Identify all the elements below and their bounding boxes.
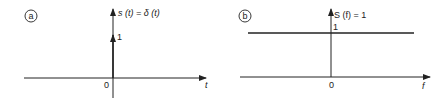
level-label: 1 xyxy=(333,22,338,32)
function-label: S (f) = 1 xyxy=(334,10,366,20)
origin-label: 0 xyxy=(329,80,334,90)
panel-a-badge: a xyxy=(25,10,37,22)
badge-letter: a xyxy=(28,11,33,21)
badge-letter: b xyxy=(242,11,247,21)
x-axis-label: t xyxy=(205,80,208,90)
function-label: s (t) = δ (t) xyxy=(118,8,160,18)
panel-a: a s (t) = δ (t) 1 0 t xyxy=(24,8,208,98)
x-axis-label: f xyxy=(422,81,426,91)
impulse-height-label: 1 xyxy=(117,32,122,42)
panel-b: b S (f) = 1 1 0 f xyxy=(239,9,430,91)
origin-label: 0 xyxy=(104,80,109,90)
diagram-canvas: a s (t) = δ (t) 1 0 t b S (f) = 1 1 0 f xyxy=(0,0,448,101)
panel-b-badge: b xyxy=(239,10,251,22)
